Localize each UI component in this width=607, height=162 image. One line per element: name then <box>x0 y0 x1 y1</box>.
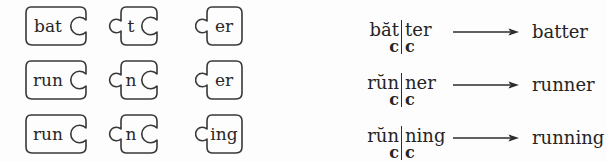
syllable-left-column: rŭn c <box>366 126 401 160</box>
analysis-row: rŭn c ning c running <box>366 126 607 162</box>
syllable-division: băt c ter c <box>366 20 432 54</box>
syllable-left-column: rŭn c <box>366 73 401 107</box>
syllable-left-column: băt c <box>366 20 401 54</box>
consonant-left: c <box>366 39 399 54</box>
consonant-right: c <box>405 39 432 54</box>
arrow-right-icon <box>452 26 520 38</box>
result-word: batter <box>532 22 588 41</box>
word-building-figure: bat t er run n <box>0 0 607 162</box>
result-word: runner <box>532 75 595 94</box>
piece-label: ing <box>210 126 237 143</box>
syllable-division: rŭn c ning c <box>366 126 445 160</box>
piece-label: n <box>126 126 137 143</box>
consonant-left: c <box>366 145 399 160</box>
analysis-row: rŭn c ner c runner <box>366 73 607 111</box>
syllable-right-column: ner c <box>401 73 436 107</box>
piece-label: er <box>215 72 233 89</box>
syllable-right-column: ter c <box>401 20 432 54</box>
consonant-right: c <box>405 92 436 107</box>
analysis-row: băt c ter c batter <box>366 20 607 58</box>
result-word: running <box>532 128 604 147</box>
piece-label: run <box>33 72 63 89</box>
consonant-left: c <box>366 92 399 107</box>
piece-label: er <box>215 18 233 35</box>
arrow-right-icon <box>452 79 520 91</box>
piece-label: t <box>128 18 135 35</box>
syllable-division: rŭn c ner c <box>366 73 436 107</box>
syllable-right-column: ning c <box>401 126 445 160</box>
consonant-right: c <box>405 145 445 160</box>
piece-label: run <box>33 126 63 143</box>
piece-label: bat <box>34 18 62 35</box>
piece-label: n <box>126 72 137 89</box>
arrow-right-icon <box>452 132 520 144</box>
